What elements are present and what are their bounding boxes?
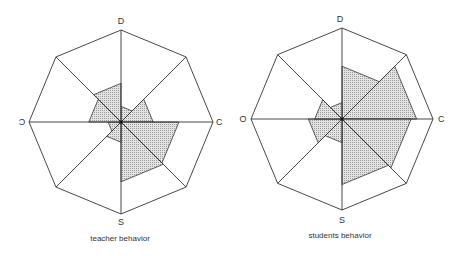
center-dot [119,120,122,123]
axis-label-bottom: S [118,217,124,227]
spoke-ne [121,57,186,122]
axis-label-right: C [216,117,223,127]
teacher-behavior-chart: D C S Ɔ teacher behavior [19,16,223,243]
octagon-grid [251,28,433,210]
axis-label-left: Ɔ [19,117,26,127]
chart-caption: students behavior [308,231,371,240]
axis-label-top: D [118,16,125,26]
octagon-grid [29,30,213,214]
radar-diagrams: D C S Ɔ teacher behavior D C S O student… [0,0,458,256]
axis-label-top: D [337,14,344,24]
axis-label-bottom: S [339,215,345,225]
axis-label-left: O [239,114,246,124]
students-behavior-chart: D C S O students behavior [239,14,445,240]
sector-fills [308,66,416,184]
spoke-sw [278,119,342,183]
center-dot [340,117,343,120]
spoke-nw [278,55,342,119]
chart-caption: teacher behavior [90,234,150,243]
axis-label-right: C [438,114,445,124]
spoke-sw [56,122,121,187]
